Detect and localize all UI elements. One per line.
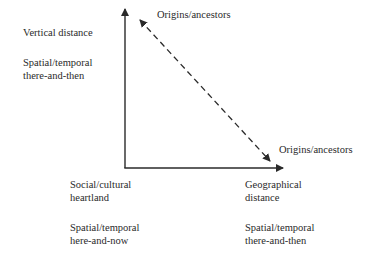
x-axis-end-label-line2: there-and-then — [245, 234, 306, 247]
dashed-connector-arrow — [140, 20, 270, 161]
x-axis-title-line1: Geographical — [245, 178, 302, 191]
origin-label-line2: here-and-now — [70, 234, 128, 247]
y-axis-end-label-line1: Spatial/temporal — [23, 56, 92, 69]
origin-label-line1: Spatial/temporal — [70, 221, 139, 234]
x-axis-end-label-line1: Spatial/temporal — [245, 221, 314, 234]
right-origins-label: Origins/ancestors — [279, 143, 353, 156]
y-axis-end-label-line2: there-and-then — [23, 69, 84, 82]
y-axis-title: Vertical distance — [23, 26, 93, 39]
x-axis-title-line2: distance — [245, 191, 279, 204]
origin-title-line2: heartland — [70, 191, 109, 204]
top-origins-label: Origins/ancestors — [157, 8, 231, 21]
origin-title-line1: Social/cultural — [70, 178, 131, 191]
